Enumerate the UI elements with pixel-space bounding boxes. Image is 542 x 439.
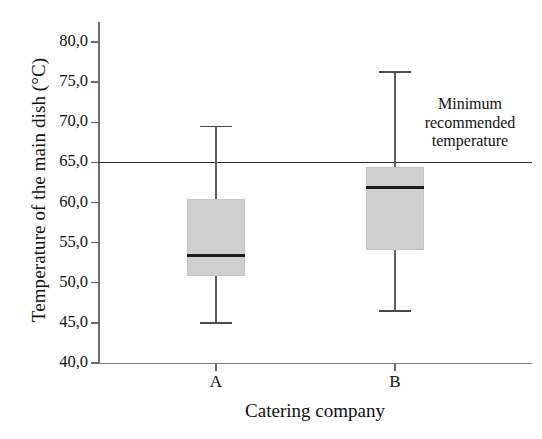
lower-whisker-stem xyxy=(215,276,216,323)
upper-whisker-stem xyxy=(394,72,395,167)
upper-whisker-cap xyxy=(379,71,411,73)
y-tick-mark xyxy=(91,242,99,243)
y-tick-mark xyxy=(91,322,99,323)
median-line xyxy=(366,186,424,189)
lower-whisker-cap xyxy=(200,322,232,324)
annotation-line: temperature xyxy=(400,132,540,150)
upper-whisker-cap xyxy=(200,126,232,128)
lower-whisker-cap xyxy=(379,310,411,312)
upper-whisker-stem xyxy=(215,126,216,198)
x-tick-mark xyxy=(215,363,216,371)
y-tick-mark xyxy=(91,122,99,123)
y-tick-label: 50,0 xyxy=(32,274,88,291)
y-axis-line xyxy=(98,22,100,364)
annotation-line: recommended xyxy=(400,114,540,132)
reference-line-annotation: Minimumrecommendedtemperature xyxy=(400,95,540,150)
median-line xyxy=(187,254,245,257)
x-tick-label-a: A xyxy=(196,372,236,392)
boxplot-figure: Temperature of the main dish (°C) 40,045… xyxy=(0,0,542,439)
x-axis-line xyxy=(98,363,532,364)
y-tick-mark xyxy=(91,81,99,82)
y-tick-label: 55,0 xyxy=(32,234,88,251)
y-tick-label: 70,0 xyxy=(32,113,88,130)
y-tick-mark xyxy=(91,202,99,203)
y-tick-label: 40,0 xyxy=(32,354,88,371)
x-axis-title: Catering company xyxy=(98,400,532,422)
y-tick-label: 75,0 xyxy=(32,73,88,90)
reference-line xyxy=(98,162,532,164)
annotation-line: Minimum xyxy=(400,95,540,113)
box-iqr xyxy=(187,199,245,277)
y-tick-label: 45,0 xyxy=(32,314,88,331)
y-tick-mark xyxy=(91,282,99,283)
y-tick-mark xyxy=(91,362,99,363)
box-iqr xyxy=(366,167,424,250)
x-tick-label-b: B xyxy=(375,372,415,392)
y-tick-label: 60,0 xyxy=(32,194,88,211)
y-tick-label: 65,0 xyxy=(32,153,88,170)
x-tick-mark xyxy=(394,363,395,371)
y-tick-mark xyxy=(91,41,99,42)
y-tick-label: 80,0 xyxy=(32,33,88,50)
lower-whisker-stem xyxy=(394,250,395,311)
